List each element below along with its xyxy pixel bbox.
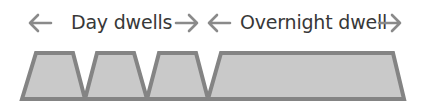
dwell-blocks-diagram: [0, 0, 421, 108]
overnight-dwell-block: [208, 53, 404, 99]
day-dwell-block-3: [147, 53, 208, 99]
day-dwell-block-1: [22, 53, 85, 99]
day-dwell-block-2: [85, 53, 147, 99]
